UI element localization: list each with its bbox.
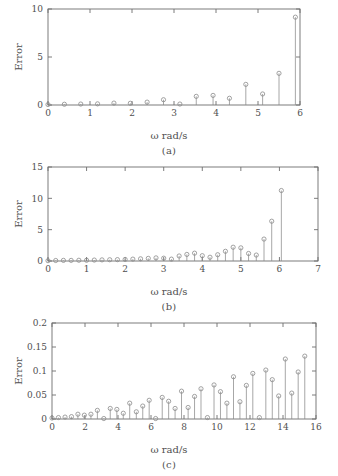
stem-series	[50, 354, 307, 421]
y-axis-label: Error	[13, 357, 24, 385]
x-tick-label: 2	[82, 422, 88, 432]
x-tick-label: 7	[315, 264, 321, 274]
plot-frame	[48, 167, 318, 261]
x-tick-label: 0	[45, 264, 51, 274]
y-tick-label: 5	[37, 225, 43, 235]
y-tick-label: 5	[37, 52, 43, 62]
x-tick-label: 6	[277, 264, 283, 274]
x-tick-label: 14	[277, 422, 289, 432]
y-tick-label: 10	[32, 194, 44, 204]
stem-plot-c: 024681012141600.050.10.150.2Error	[0, 314, 338, 444]
stem-plot-b: 01234567051015Error	[0, 158, 338, 286]
x-axis-label-b: ω rad/s	[0, 286, 338, 297]
x-tick-label: 4	[199, 264, 205, 274]
plot-frame	[52, 323, 316, 419]
chart-panel-b: 01234567051015Error ω rad/s (b)	[0, 158, 338, 314]
x-tick-label: 3	[161, 264, 167, 274]
chart-panel-a: 01234560510Error ω rad/s (a)	[0, 0, 338, 158]
x-tick-label: 8	[181, 422, 187, 432]
y-tick-label: 0.15	[27, 342, 47, 352]
stem-series	[46, 15, 298, 107]
x-tick-label: 3	[171, 108, 177, 118]
data-point-marker	[77, 258, 81, 262]
y-tick-label: 10	[32, 4, 44, 14]
x-tick-label: 16	[310, 422, 322, 432]
x-tick-label: 5	[238, 264, 244, 274]
y-tick-label: 0.1	[33, 366, 47, 376]
y-tick-label: 0	[37, 256, 43, 266]
x-tick-label: 12	[244, 422, 255, 432]
y-tick-label: 0.2	[33, 318, 47, 328]
x-tick-label: 4	[213, 108, 219, 118]
plot-frame	[48, 9, 300, 105]
x-tick-label: 1	[84, 264, 90, 274]
stem-plot-a: 01234560510Error	[0, 0, 338, 130]
x-tick-label: 1	[87, 108, 93, 118]
data-point-marker	[54, 258, 58, 262]
y-tick-label: 0	[41, 414, 47, 424]
data-point-marker	[102, 416, 106, 420]
x-tick-label: 5	[255, 108, 261, 118]
y-tick-label: 0	[37, 100, 43, 110]
x-tick-label: 6	[297, 108, 303, 118]
panel-caption-a: (a)	[0, 145, 338, 156]
data-point-marker	[154, 416, 158, 420]
panel-caption-b: (b)	[0, 301, 338, 312]
y-axis-label: Error	[13, 200, 24, 228]
y-tick-label: 0.05	[27, 390, 47, 400]
y-axis-label: Error	[13, 43, 24, 71]
x-tick-label: 2	[129, 108, 135, 118]
y-tick-label: 15	[32, 162, 44, 172]
x-tick-label: 10	[211, 422, 223, 432]
x-tick-label: 2	[122, 264, 128, 274]
x-axis-label-c: ω rad/s	[0, 444, 338, 455]
x-axis-label-a: ω rad/s	[0, 130, 338, 141]
panel-caption-c: (c)	[0, 459, 338, 470]
x-tick-label: 0	[49, 422, 55, 432]
chart-panel-c: 024681012141600.050.10.150.2Error ω rad/…	[0, 314, 338, 476]
x-tick-label: 4	[115, 422, 121, 432]
x-tick-label: 0	[45, 108, 51, 118]
stem-series	[46, 188, 284, 262]
x-tick-label: 6	[148, 422, 154, 432]
